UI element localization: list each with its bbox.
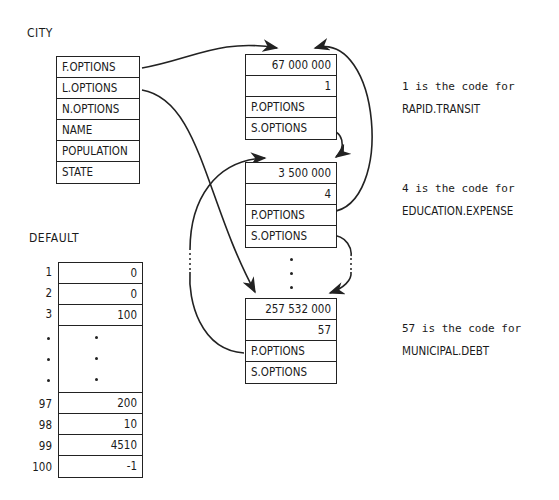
- option-s-options: S.OPTIONS: [246, 118, 336, 139]
- city-title: CITY: [27, 26, 53, 40]
- city-field-l-options: L.OPTIONS: [57, 78, 139, 99]
- city-field-f-options: F.OPTIONS: [57, 57, 139, 78]
- city-record: F.OPTIONS L.OPTIONS N.OPTIONS NAME POPUL…: [56, 56, 140, 184]
- city-field-population: POPULATION: [57, 141, 139, 162]
- option-code: 57: [246, 320, 336, 341]
- ellipsis-dot: [290, 258, 293, 261]
- default-index: 3: [22, 304, 52, 325]
- default-array: 0 0 100 200 10 4510 -1: [58, 262, 143, 478]
- default-index: 100: [22, 457, 52, 478]
- default-index: 1: [22, 262, 52, 283]
- option-amount: 67 000 000: [246, 55, 336, 76]
- ellipsis-dot: [47, 337, 50, 340]
- ellipsis-dot: [95, 378, 98, 381]
- ellipsis-dot: [290, 286, 293, 289]
- option-p-options: P.OPTIONS: [246, 97, 336, 118]
- city-field-state: STATE: [57, 162, 139, 183]
- default-ellipsis-cell: [59, 326, 142, 393]
- default-value: 200: [59, 393, 142, 414]
- default-title: DEFAULT: [29, 231, 79, 245]
- option-note-2: 4 is the code for EDUCATION.EXPENSE: [402, 178, 515, 222]
- ellipsis-dot: [95, 336, 98, 339]
- default-value: 10: [59, 414, 142, 435]
- city-field-name: NAME: [57, 120, 139, 141]
- option-note-3: 57 is the code for MUNICIPAL.DEBT: [402, 318, 521, 362]
- default-value: 0: [59, 263, 142, 284]
- default-value: -1: [59, 456, 142, 477]
- option-record-2: 3 500 000 4 P.OPTIONS S.OPTIONS: [245, 162, 337, 248]
- option-note-1: 1 is the code for RAPID.TRANSIT: [402, 76, 515, 120]
- default-index: 97: [22, 394, 52, 415]
- option-code: 4: [246, 184, 336, 205]
- option-s-options: S.OPTIONS: [246, 226, 336, 247]
- default-value: 4510: [59, 435, 142, 456]
- option-amount: 3 500 000: [246, 163, 336, 184]
- ellipsis-dot: [47, 379, 50, 382]
- option-p-options: P.OPTIONS: [246, 341, 336, 362]
- ellipsis-dot: [290, 272, 293, 275]
- option-code: 1: [246, 76, 336, 97]
- default-index: 99: [22, 436, 52, 457]
- ellipsis-dot: [47, 358, 50, 361]
- option-amount: 257 532 000: [246, 299, 336, 320]
- option-s-options: S.OPTIONS: [246, 362, 336, 383]
- default-index: 98: [22, 415, 52, 436]
- ellipsis-dot: [95, 357, 98, 360]
- option-p-options: P.OPTIONS: [246, 205, 336, 226]
- default-index: 2: [22, 283, 52, 304]
- city-field-n-options: N.OPTIONS: [57, 99, 139, 120]
- option-record-1: 67 000 000 1 P.OPTIONS S.OPTIONS: [245, 54, 337, 140]
- default-value: 0: [59, 284, 142, 305]
- option-record-3: 257 532 000 57 P.OPTIONS S.OPTIONS: [245, 298, 337, 384]
- default-value: 100: [59, 305, 142, 326]
